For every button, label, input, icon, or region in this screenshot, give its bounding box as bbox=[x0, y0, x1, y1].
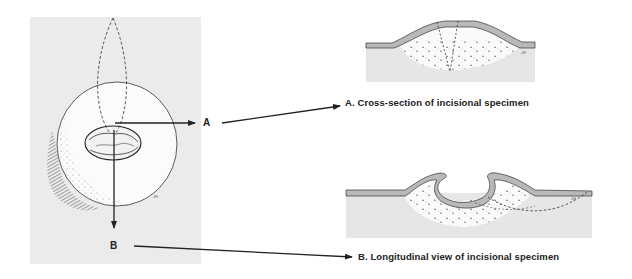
artist-signature: JH bbox=[152, 194, 158, 199]
cross-section-panel: JH bbox=[366, 21, 535, 82]
top-view-panel: JH bbox=[30, 17, 201, 264]
svg-text:JH: JH bbox=[570, 196, 576, 201]
label-b: B bbox=[110, 240, 117, 251]
caption-a: A. Cross-section of incisional specimen bbox=[345, 97, 529, 108]
longitudinal-panel: JH bbox=[346, 173, 592, 238]
connector-a bbox=[222, 106, 340, 123]
diagram-canvas: JH JH JH bbox=[0, 0, 632, 279]
label-a: A bbox=[203, 117, 210, 128]
caption-b: B. Longitudinal view of incisional speci… bbox=[358, 251, 559, 262]
svg-text:JH: JH bbox=[520, 50, 526, 55]
